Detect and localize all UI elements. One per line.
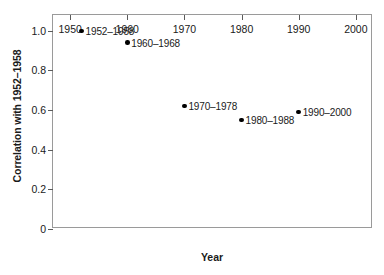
- y-tick-label: 0.4: [31, 144, 46, 156]
- x-tick-mark: [242, 15, 243, 20]
- y-tick-mark: [48, 189, 53, 190]
- y-tick-label: 0.6: [31, 104, 46, 116]
- y-tick-mark: [48, 31, 53, 32]
- y-tick-mark: [48, 150, 53, 151]
- data-point-marker: [79, 29, 84, 34]
- x-tick-mark: [70, 15, 71, 20]
- y-tick-label: 1.0: [31, 25, 46, 37]
- plot-area: 00.20.40.60.81.0 19501960197019801990200…: [52, 14, 372, 228]
- data-point-label: 1980–1988: [246, 115, 295, 126]
- x-tick-label: 2000: [344, 23, 367, 35]
- data-point-label: 1952–1958: [86, 25, 135, 36]
- data-point-label: 1990–2000: [303, 107, 352, 118]
- x-tick-mark: [356, 15, 357, 20]
- y-tick-mark: [48, 70, 53, 71]
- y-tick-label: 0.2: [31, 183, 46, 195]
- data-point-marker: [182, 104, 187, 109]
- y-axis-title: Correlation with 1952–1958: [11, 6, 23, 226]
- x-tick-label: 1970: [173, 23, 196, 35]
- x-axis-title: Year: [52, 251, 372, 263]
- y-tick-mark: [48, 229, 53, 230]
- data-point-label: 1970–1978: [188, 101, 237, 112]
- data-point-marker: [239, 118, 244, 123]
- y-tick-label: 0: [40, 223, 46, 235]
- x-tick-mark: [299, 15, 300, 20]
- x-tick-label: 1980: [230, 23, 253, 35]
- data-point-marker: [125, 40, 130, 45]
- x-tick-mark: [184, 15, 185, 20]
- y-tick-label: 0.8: [31, 64, 46, 76]
- x-tick-label: 1990: [287, 23, 310, 35]
- x-tick-label: 1950: [58, 23, 81, 35]
- y-tick-mark: [48, 110, 53, 111]
- data-point-marker: [296, 110, 301, 115]
- data-point-label: 1960–1968: [131, 37, 180, 48]
- x-tick-mark: [127, 15, 128, 20]
- scatter-chart: Correlation with 1952–1958 00.20.40.60.8…: [0, 0, 384, 275]
